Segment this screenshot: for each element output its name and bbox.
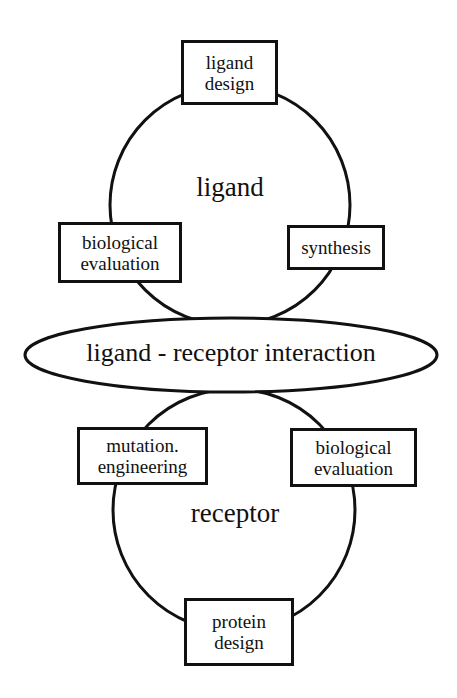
synthesis-label: synthesis <box>301 237 371 258</box>
ligand-design-line1: ligand <box>206 52 254 73</box>
protein-design-line1: protein <box>212 611 266 632</box>
biological-evaluation-ligand-box: biological evaluation <box>58 222 182 283</box>
interaction-label: ligand - receptor interaction <box>25 338 437 368</box>
mutation-engineering-line1: mutation. <box>106 435 178 456</box>
ligand-cycle-circle <box>110 85 350 325</box>
receptor-label: receptor <box>170 498 300 529</box>
protein-design-line2: design <box>214 632 264 653</box>
ligand-label: ligand <box>170 172 290 203</box>
ligand-design-box: ligand design <box>181 40 278 105</box>
ligand-design-line2: design <box>205 73 255 94</box>
biological-evaluation-receptor-line1: biological <box>316 437 392 458</box>
biological-evaluation-receptor-line2: evaluation <box>314 458 393 479</box>
mutation-engineering-box: mutation. engineering <box>77 427 208 485</box>
mutation-engineering-line2: engineering <box>98 456 188 477</box>
synthesis-box: synthesis <box>287 225 385 270</box>
biological-evaluation-ligand-line2: evaluation <box>80 253 159 274</box>
protein-design-box: protein design <box>184 598 294 666</box>
biological-evaluation-receptor-box: biological evaluation <box>290 428 417 487</box>
biological-evaluation-ligand-line1: biological <box>82 232 158 253</box>
